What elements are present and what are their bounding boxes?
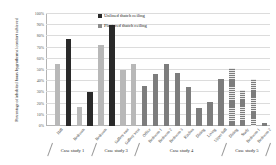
legend-swatch-icon bbox=[98, 24, 102, 28]
bar bbox=[186, 87, 191, 126]
legend-item: Unlined thatch ceiling bbox=[98, 12, 147, 20]
bar bbox=[55, 64, 60, 126]
y-tick-label: 20% bbox=[37, 100, 44, 105]
bar bbox=[66, 39, 71, 126]
legend-swatch-icon bbox=[98, 14, 102, 18]
bar bbox=[196, 108, 201, 126]
case-study-group-band: Case study 1Case study 3Case study 4Case… bbox=[40, 146, 274, 162]
bar bbox=[164, 64, 169, 126]
bar bbox=[109, 25, 114, 126]
y-tick-label: 70% bbox=[37, 44, 44, 49]
x-axis-label: Bedroom bbox=[94, 127, 108, 141]
case-study-group-label: Case study 1 bbox=[61, 148, 84, 153]
bar bbox=[120, 70, 125, 126]
chart-legend: Unlined thatch ceilingPlastered thatch c… bbox=[98, 12, 147, 32]
case-study-group-label: Case study 5 bbox=[235, 148, 258, 153]
bar bbox=[207, 102, 212, 126]
case-study-group-label: Case study 4 bbox=[170, 148, 193, 153]
y-tick-label: 30% bbox=[37, 89, 44, 94]
x-axis-label: Kitchen bbox=[183, 127, 195, 140]
x-axis-label: Dining bbox=[227, 127, 238, 139]
x-axis-label: Bedroom bbox=[72, 127, 86, 141]
bar bbox=[98, 45, 103, 126]
legend-label: Plastered thatch ceiling bbox=[104, 22, 147, 30]
y-tick-label: 40% bbox=[37, 78, 44, 83]
bar bbox=[240, 90, 245, 126]
bar bbox=[87, 92, 92, 126]
bar-chart-figure: Percentage of inhabited hours hygrotherm… bbox=[0, 0, 276, 165]
bar bbox=[262, 123, 267, 126]
bar bbox=[175, 73, 180, 126]
y-tick-label: 50% bbox=[37, 67, 44, 72]
y-axis-title: Percentage of inhabited hours hygrotherm… bbox=[14, 18, 28, 122]
legend-label: Unlined thatch ceiling bbox=[104, 12, 145, 20]
bar bbox=[153, 74, 158, 126]
y-tick-label: 100% bbox=[35, 11, 44, 16]
bar-series-layer bbox=[46, 14, 270, 126]
bar bbox=[142, 86, 147, 126]
y-tick-label: 0% bbox=[39, 123, 44, 128]
case-study-group-label: Case study 3 bbox=[104, 148, 127, 153]
x-axis-label: Hall bbox=[56, 127, 64, 135]
bar bbox=[131, 64, 136, 126]
bar bbox=[251, 79, 256, 126]
bar bbox=[77, 107, 82, 126]
bar bbox=[218, 79, 223, 126]
y-tick-label: 90% bbox=[37, 22, 44, 27]
y-tick-label: 10% bbox=[37, 111, 44, 116]
y-tick-label: 60% bbox=[37, 55, 44, 60]
bar bbox=[229, 68, 234, 126]
y-tick-label: 80% bbox=[37, 33, 44, 38]
legend-item: Plastered thatch ceiling bbox=[98, 22, 147, 30]
x-axis-label: Dining bbox=[195, 127, 206, 139]
plot-area: 0%10%20%30%40%50%60%70%80%90%100% bbox=[46, 14, 270, 126]
